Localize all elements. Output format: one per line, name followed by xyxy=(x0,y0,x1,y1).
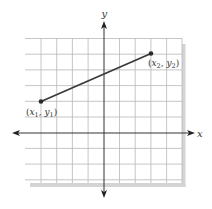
coordinate-diagram: x y (x1, y1) (x2, y2) xyxy=(0,0,212,209)
paren-close: ) xyxy=(176,58,180,68)
x-axis-label: x xyxy=(197,128,203,139)
line-segment xyxy=(41,54,151,102)
point-1-marker xyxy=(39,99,44,104)
y-axis xyxy=(101,21,107,198)
paren-close: ) xyxy=(54,107,58,117)
point-2-marker xyxy=(149,51,154,56)
y-axis-label: y xyxy=(101,8,108,19)
point-2-label: (x2, y2) xyxy=(148,58,179,70)
